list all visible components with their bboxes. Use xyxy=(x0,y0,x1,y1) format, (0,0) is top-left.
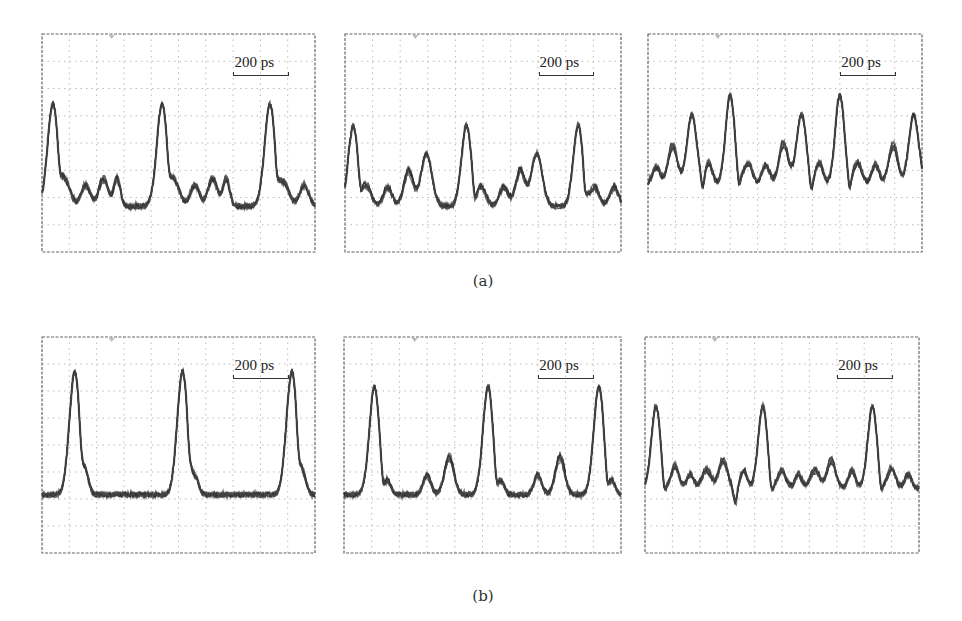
scope-panel-a1: 200 ps xyxy=(42,34,315,252)
waveform-traces xyxy=(345,123,621,209)
scale-bar-label: 200 ps xyxy=(540,55,580,70)
scope-panel-b1: 200 ps xyxy=(42,337,315,553)
scope-panel-b3: 200 ps xyxy=(645,337,919,553)
scope-panel-a3: 200 ps xyxy=(648,34,922,252)
caption-a: (a) xyxy=(453,272,513,290)
scale-bar xyxy=(838,378,891,379)
scale-bar-label: 200 ps xyxy=(539,358,579,373)
scale-bar-label: 200 ps xyxy=(234,55,274,70)
scope-panel-b2: 200 ps xyxy=(344,337,621,553)
scale-bar-label: 200 ps xyxy=(841,55,881,70)
caption-b: (b) xyxy=(453,587,513,605)
waveform-traces xyxy=(648,93,922,189)
grid xyxy=(345,34,621,252)
scope-panel-a2: 200 ps xyxy=(345,34,621,252)
scale-bar-label: 200 ps xyxy=(838,358,878,373)
scale-bar xyxy=(234,378,287,379)
waveform-plot xyxy=(344,337,621,553)
scale-bar xyxy=(234,75,287,76)
scale-bar xyxy=(539,378,593,379)
grid xyxy=(42,337,315,553)
scale-bar-label: 200 ps xyxy=(234,358,274,373)
waveform-plot xyxy=(42,337,315,553)
waveform-plot xyxy=(42,34,315,252)
waveform-plot xyxy=(345,34,621,252)
scale-bar xyxy=(841,75,894,76)
waveform-traces xyxy=(42,369,315,497)
scale-bar xyxy=(540,75,594,76)
